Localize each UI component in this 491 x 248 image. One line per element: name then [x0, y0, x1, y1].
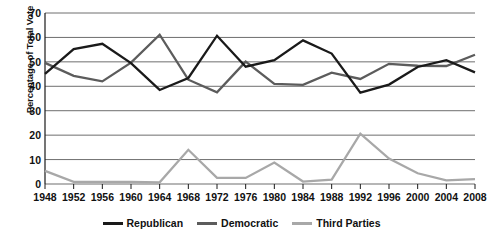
line-swatch-icon — [292, 222, 312, 225]
plot-area — [45, 13, 475, 184]
line-swatch-icon — [103, 222, 123, 225]
y-tick-label-70: 70 — [17, 8, 41, 18]
legend-label: Democratic — [221, 217, 278, 229]
plot-canvas — [45, 13, 475, 184]
legend-item-republican[interactable]: Republican — [103, 217, 184, 229]
x-tick-label-2008: 2008 — [455, 191, 491, 203]
line-swatch-icon — [197, 222, 217, 225]
legend-label: Third Parties — [316, 217, 380, 229]
legend-item-democratic[interactable]: Democratic — [197, 217, 278, 229]
legend-label: Republican — [127, 217, 184, 229]
legend-item-third-parties[interactable]: Third Parties — [292, 217, 380, 229]
y-axis-tick-labels: 706050403020100 — [13, 0, 41, 200]
y-tick-label-30: 30 — [17, 106, 41, 116]
y-tick-label-10: 10 — [17, 155, 41, 165]
y-tick-label-0: 0 — [17, 179, 41, 189]
y-tick-label-40: 40 — [17, 81, 41, 91]
y-tick-label-60: 60 — [17, 32, 41, 42]
x-axis-tick-labels: 1948195219561960196419681972197619801984… — [45, 191, 475, 207]
y-tick-label-20: 20 — [17, 130, 41, 140]
y-tick-label-50: 50 — [17, 57, 41, 67]
chart-legend: RepublicanDemocraticThird Parties — [0, 217, 483, 229]
series-line-third-parties — [45, 134, 475, 183]
